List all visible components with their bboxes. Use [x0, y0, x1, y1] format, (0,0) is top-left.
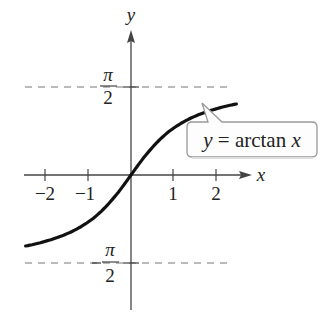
svg-text:2: 2	[105, 265, 115, 286]
y-tick-label-neg-pi-over-2: π 2	[92, 239, 119, 286]
svg-text:2: 2	[103, 87, 113, 108]
x-tick-label: −1	[75, 183, 95, 204]
svg-text:π: π	[103, 64, 113, 85]
annotation-callout: y = arctan x	[187, 103, 317, 158]
annotation-label: y = arctan x	[201, 128, 301, 152]
svg-text:π: π	[105, 239, 115, 260]
x-tick-label: −2	[35, 183, 55, 204]
x-tick-labels: −2 −1 1 2	[35, 183, 221, 204]
x-axis-label: x	[256, 164, 266, 185]
y-axis-label: y	[125, 4, 136, 25]
arctan-chart: −2 −1 1 2 π 2 π 2 y x y = arctan x	[0, 0, 333, 313]
x-tick-label: 1	[168, 183, 178, 204]
y-tick-label-pi-over-2: π 2	[100, 64, 117, 108]
x-tick-label: 2	[211, 183, 221, 204]
